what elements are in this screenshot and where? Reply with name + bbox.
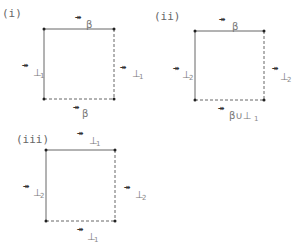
double-arrow-icon: ↠ (124, 183, 131, 192)
double-arrow-icon: ↠ (75, 13, 82, 22)
vertex-dot (114, 220, 117, 223)
edge-label-bottom-sub: 1 (94, 236, 98, 244)
edge-label-top-sub: 1 (96, 140, 100, 148)
double-arrow-icon: ↠ (22, 61, 29, 70)
edge-label-top: β (232, 21, 238, 32)
vertex-dot (194, 30, 197, 33)
vertex-dot (43, 28, 46, 31)
double-arrow-icon: ↠ (218, 104, 225, 113)
panel-i: (i) ↠ β ↠ ⊥ 1 ↠ ⊥ 1 ↠ β (2, 7, 143, 119)
edge-label-left-sub: 2 (40, 192, 44, 200)
panel-iii: (iii) ↠ ⊥ 1 ↠ ⊥ 2 ↠ ⊥ 2 ↠ ⊥ 1 (16, 129, 146, 244)
edge-label-right-sub: 2 (287, 76, 291, 84)
double-arrow-icon: ↠ (219, 15, 226, 24)
edge-label-left-sub: 2 (189, 74, 193, 82)
vertex-dot (114, 149, 117, 152)
panel-label: (ii) (154, 10, 181, 23)
edge-label-top: β (86, 19, 92, 30)
edge-label-bottom: β (82, 108, 88, 119)
commutative-squares-diagram: (i) ↠ β ↠ ⊥ 1 ↠ ⊥ 1 ↠ β (ii) ↠ β ↠ (0, 0, 307, 250)
double-arrow-icon: ↠ (120, 63, 127, 72)
panel-label: (i) (2, 7, 22, 20)
vertex-dot (263, 30, 266, 33)
double-arrow-icon: ↠ (77, 225, 84, 234)
edge-label-bottom-sub: 1 (254, 115, 258, 123)
double-arrow-icon: ↠ (173, 64, 180, 73)
edge-label-left-sub: 1 (40, 72, 44, 80)
edge-label-bottom: β∪⊥ (229, 110, 251, 121)
vertex-dot (45, 149, 48, 152)
vertex-dot (113, 28, 116, 31)
edge-label-right-sub: 1 (139, 73, 143, 81)
double-arrow-icon: ↠ (73, 103, 80, 112)
vertex-dot (113, 98, 116, 101)
double-arrow-icon: ↠ (23, 182, 30, 191)
panel-label: (iii) (16, 133, 49, 146)
panel-ii: (ii) ↠ β ↠ ⊥ 2 ↠ ⊥ 2 ↠ β∪⊥ 1 (154, 10, 291, 123)
edge-label-right-sub: 2 (142, 194, 146, 202)
double-arrow-icon: ↠ (272, 64, 279, 73)
vertex-dot (263, 99, 266, 102)
vertex-dot (45, 220, 48, 223)
vertex-dot (43, 98, 46, 101)
vertex-dot (194, 99, 197, 102)
double-arrow-icon: ↠ (77, 129, 84, 138)
